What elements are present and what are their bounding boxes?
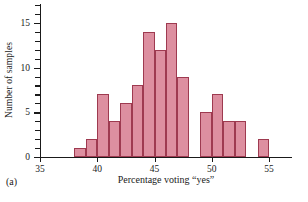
x-tick-label: 35: [35, 164, 45, 174]
histogram-bar: [212, 94, 223, 157]
panel-label: (a): [6, 176, 17, 187]
y-tick-label: 5: [25, 107, 30, 117]
histogram-bar: [97, 94, 108, 157]
histogram-bar: [258, 139, 269, 157]
histogram-bar: [120, 103, 131, 157]
y-tick-label: 10: [21, 63, 31, 73]
x-tick-label: 55: [264, 164, 274, 174]
histogram-bar: [143, 32, 154, 157]
y-tick-label: 15: [21, 18, 31, 28]
histogram-bar: [109, 121, 120, 157]
y-axis-title-text: Number of samples: [4, 42, 14, 118]
histogram-figure: Number of samples 051015 3540455055 Perc…: [0, 0, 308, 202]
histogram-bar: [235, 121, 246, 157]
y-tick-label: 0: [25, 152, 30, 162]
histogram-bar: [200, 112, 211, 157]
y-axis-title: Number of samples: [0, 0, 18, 160]
x-axis-title-text: Percentage voting “yes”: [118, 174, 215, 185]
x-axis-title: Percentage voting “yes”: [40, 174, 292, 185]
histogram-bar: [223, 121, 234, 157]
histogram-bar: [155, 50, 166, 157]
plot-area: 051015 3540455055: [40, 4, 292, 158]
x-tick-label: 40: [93, 164, 103, 174]
histogram-bars: [40, 4, 292, 158]
x-tick-label: 45: [150, 164, 160, 174]
histogram-bar: [166, 23, 177, 157]
histogram-bar: [177, 77, 188, 157]
histogram-bar: [86, 139, 97, 157]
x-tick-label: 50: [207, 164, 217, 174]
histogram-bar: [132, 85, 143, 157]
histogram-bar: [74, 148, 85, 157]
